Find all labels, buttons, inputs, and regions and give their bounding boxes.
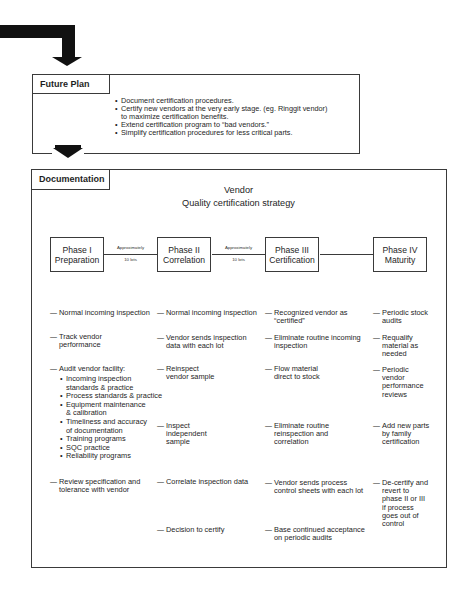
connector-line (104, 254, 157, 255)
phase2-activity: Normal incoming inspection (157, 309, 257, 317)
phase4-activity: Periodic vendor performance reviews (373, 366, 424, 399)
audit-subitem: Equipment maintenance & calibration (60, 401, 162, 418)
audit-subitem: Reliability programs (60, 452, 162, 461)
phase4-activity: Periodic stock audits (373, 309, 428, 325)
future-plan-list: Document certification procedures. Certi… (115, 97, 327, 137)
phase2-activity: Vendor sends inspection data with each l… (157, 334, 247, 350)
phase4-activity: De-certify and revert to phase II or III… (373, 479, 428, 528)
transition-label-bottom: 10 lots (104, 257, 157, 262)
audit-subitem: Timeliness and accuracy of documentation (60, 418, 162, 435)
future-plan-item: Certify new vendors at the very early st… (115, 105, 327, 121)
audit-subitem: Incoming inspection standards & practice (60, 375, 162, 392)
phase3-activity: Vendor sends process control sheets with… (265, 479, 363, 495)
future-plan-item: Simplify certification procedures for le… (115, 129, 327, 137)
phase-box-4: Phase IV Maturity (373, 237, 427, 272)
transition-label-top: Approximately (212, 245, 265, 250)
connector-line (212, 254, 265, 255)
strategy-title-line2: Quality certification strategy (31, 198, 446, 208)
phase-box-1: Phase I Preparation (50, 237, 104, 272)
phase2-activity: Correlate inspection data (157, 478, 248, 486)
phase1-activity: Review specification and tolerance with … (50, 478, 140, 494)
arrow-head (53, 148, 83, 158)
phase3-activity: Eliminate routine incoming inspection (265, 334, 361, 350)
phase2-activity: Reinspect vendor sample (157, 365, 214, 381)
phase-box-2: Phase II Correlation (157, 237, 211, 272)
future-plan-label: Future Plan (32, 74, 110, 94)
phase-box-3: Phase III Certification (265, 237, 319, 272)
phase1-activity: Audit vendor facility: (50, 365, 125, 373)
phase-name: Phase I (62, 245, 91, 255)
phase4-activity: Add new parts by family certification (373, 422, 429, 447)
transition-label-top: Approximately (104, 245, 157, 250)
phase-subtitle: Maturity (385, 255, 416, 265)
phase4-activity: Requalify material as needed (373, 334, 418, 359)
phase3-activity: Base continued acceptance on periodic au… (265, 526, 365, 542)
phase-name: Phase IV (383, 245, 418, 255)
phase-subtitle: Preparation (55, 255, 99, 265)
phase2-activity: Inspect independent sample (157, 422, 207, 447)
phase1-activity: Normal incoming inspection (50, 309, 150, 317)
phase2-activity: Decision to certify (157, 526, 224, 534)
phase1-activity: Track vendor performance (50, 333, 102, 349)
audit-subitems-list: Incoming inspection standards & practice… (60, 375, 162, 461)
phase-subtitle: Correlation (163, 255, 205, 265)
phase-name: Phase II (168, 245, 200, 255)
transition-label-bottom: 10 lots (212, 257, 265, 262)
phase3-activity: Flow material direct to stock (265, 365, 320, 381)
connector-line (320, 254, 373, 255)
strategy-title-line1: Vendor (31, 185, 446, 195)
phase-name: Phase III (275, 245, 309, 255)
phase-subtitle: Certification (269, 255, 314, 265)
phase3-activity: Recognized vendor as “certified” (265, 309, 348, 325)
arrow-head (52, 57, 82, 66)
phase3-activity: Eliminate routine reinspection and corre… (265, 422, 329, 447)
arrow-vertical-stem (62, 25, 75, 58)
